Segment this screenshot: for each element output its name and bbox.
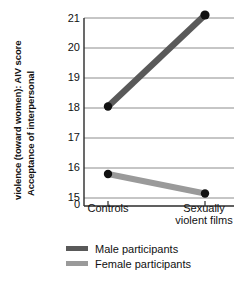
y-tick-label-16: 16 [50,162,80,173]
legend-item-male-participants: Male participants [66,241,246,256]
male-data-point-sexually-violent-films [200,10,209,19]
series-male-participants [104,10,210,110]
female-data-point-sexually-violent-films [201,189,209,197]
series-female-participants [104,170,209,198]
y-tick-label-19: 19 [50,72,80,83]
chart-figure: Acceptance of interpersonal violence (to… [0,0,250,281]
legend-label-female-participants: Female participants [95,258,191,270]
plot-area [84,18,234,198]
legend-item-female-participants: Female participants [66,256,246,271]
female-line-segment [108,174,205,194]
chart-legend: Male participants Female participants [66,241,246,271]
female-data-point-controls [104,170,112,178]
male-data-point-controls [104,102,112,110]
legend-swatch-male-icon [66,246,88,251]
legend-label-male-participants: Male participants [95,243,178,255]
y-tick-label-18: 18 [50,102,80,113]
y-tick-label-21: 21 [50,13,80,24]
y-axis-title-line-1: Acceptance of interpersonal [25,71,36,196]
y-axis-tick-labels: 21 20 19 18 17 16 15 0 [50,0,80,210]
legend-swatch-female-icon [66,261,88,266]
x-tick-label-controls: Controls [62,202,154,214]
x-tick-label-controls-line-1: Controls [62,202,154,214]
x-tick-label-sexually-violent-films-line-2: violent films [158,214,250,226]
y-axis-title: Acceptance of interpersonal violence (to… [0,0,46,210]
y-tick-label-20: 20 [50,42,80,53]
male-line-segment [108,15,205,107]
x-tick-label-sexually-violent-films: Sexually violent films [158,202,250,227]
x-tick-label-sexually-violent-films-line-1: Sexually [158,202,250,214]
y-tick-label-17: 17 [50,132,80,143]
y-axis-title-line-2: violence (toward women): AIV score [12,41,23,200]
